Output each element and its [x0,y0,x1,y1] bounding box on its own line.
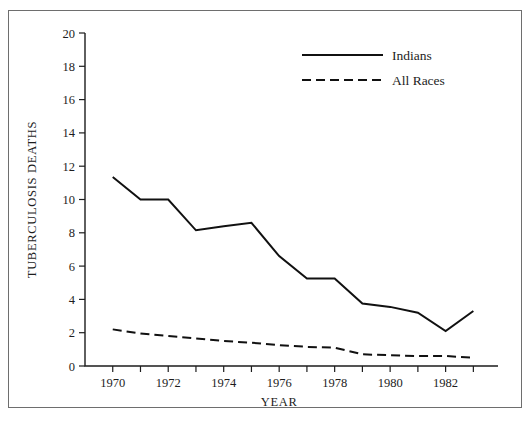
legend-label-indians: Indians [392,48,432,63]
x-tick-label: 1970 [100,376,125,390]
y-tick-label: 4 [69,293,76,307]
figure-container: 0246810121416182019701972197419761978198… [0,0,532,424]
y-tick-label: 6 [69,260,75,274]
x-tick-label: 1976 [267,376,292,390]
y-tick-label: 2 [69,326,75,340]
y-tick-label: 14 [63,126,76,140]
x-axis-title: YEAR [261,395,298,409]
line-chart: 0246810121416182019701972197419761978198… [0,0,532,424]
y-tick-label: 10 [63,193,76,207]
y-tick-label: 12 [63,160,76,174]
y-tick-label: 16 [63,93,76,107]
y-tick-label: 20 [63,27,76,41]
x-tick-label: 1982 [433,376,458,390]
series-line-indians [113,177,474,331]
x-tick-label: 1978 [322,376,347,390]
y-tick-label: 18 [63,60,76,74]
y-tick-label: 0 [69,360,75,374]
x-tick-label: 1974 [211,376,237,390]
legend-label-all-races: All Races [392,73,445,88]
x-tick-label: 1972 [156,376,181,390]
series-line-all-races [113,329,474,357]
x-tick-label: 1980 [378,376,403,390]
y-tick-label: 8 [69,226,75,240]
y-axis-title: TUBERCULOSIS DEATHS [25,121,39,278]
